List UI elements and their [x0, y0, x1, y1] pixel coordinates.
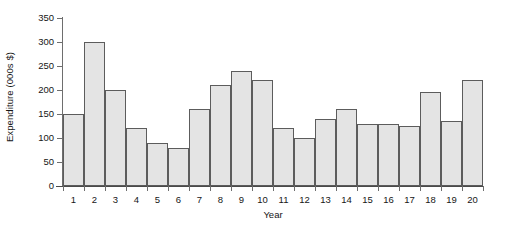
x-tick-mark: [231, 186, 232, 191]
x-tick-mark: [336, 186, 337, 191]
x-tick-mark: [483, 186, 484, 191]
x-tick-label: 1: [71, 193, 76, 206]
x-tick-mark: [105, 186, 106, 191]
x-tick-label: 14: [341, 193, 352, 206]
y-tick-label: 200: [38, 83, 54, 96]
x-tick-mark: [399, 186, 400, 191]
x-tick-mark: [462, 186, 463, 191]
y-tick-label: 150: [38, 107, 54, 120]
x-tick-label: 12: [299, 193, 310, 206]
x-tick-label: 19: [446, 193, 457, 206]
bar: [126, 128, 147, 186]
x-tick-mark: [168, 186, 169, 191]
x-tick-mark: [273, 186, 274, 191]
x-axis-title: Year: [63, 208, 483, 221]
y-tick: 100: [0, 138, 63, 139]
y-tick: 200: [0, 90, 63, 91]
y-tick-label: 250: [38, 59, 54, 72]
x-tick-mark: [126, 186, 127, 191]
bar: [63, 114, 84, 186]
x-tick-mark: [84, 186, 85, 191]
bar: [378, 124, 399, 186]
x-tick-label: 13: [320, 193, 331, 206]
bar: [441, 121, 462, 186]
x-tick-label: 6: [176, 193, 181, 206]
x-tick-mark: [252, 186, 253, 191]
x-tick-label: 7: [197, 193, 202, 206]
bar: [210, 85, 231, 186]
x-tick-label: 10: [257, 193, 268, 206]
y-tick-label: 50: [43, 155, 54, 168]
y-tick: 250: [0, 66, 63, 67]
x-tick-mark: [357, 186, 358, 191]
bar: [420, 92, 441, 186]
y-tick: 50: [0, 162, 63, 163]
y-tick-label: 350: [38, 11, 54, 24]
x-tick-label: 3: [113, 193, 118, 206]
plot-area: [63, 18, 483, 186]
x-tick-mark: [378, 186, 379, 191]
x-tick-mark: [420, 186, 421, 191]
x-tick-label: 18: [425, 193, 436, 206]
y-tick: 0: [0, 186, 63, 187]
y-tick: 300: [0, 42, 63, 43]
x-tick-mark: [210, 186, 211, 191]
bar: [231, 71, 252, 186]
x-tick-label: 16: [383, 193, 394, 206]
y-tick-label: 0: [49, 179, 54, 192]
x-tick-label: 9: [239, 193, 244, 206]
x-tick-mark: [315, 186, 316, 191]
bar: [462, 80, 483, 186]
x-tick-mark: [189, 186, 190, 191]
x-tick-label: 15: [362, 193, 373, 206]
bar-chart: Expenditure (000s $) 0501001502002503003…: [0, 0, 511, 236]
bar: [168, 148, 189, 186]
x-tick-label: 5: [155, 193, 160, 206]
bar: [189, 109, 210, 186]
bar: [252, 80, 273, 186]
x-tick-mark: [63, 186, 64, 191]
bar: [294, 138, 315, 186]
bar: [336, 109, 357, 186]
x-tick-label: 4: [134, 193, 139, 206]
x-tick-mark: [441, 186, 442, 191]
bar: [105, 90, 126, 186]
y-tick: 350: [0, 18, 63, 19]
x-tick-mark: [147, 186, 148, 191]
x-tick-label: 8: [218, 193, 223, 206]
bar: [399, 126, 420, 186]
y-tick-label: 300: [38, 35, 54, 48]
x-tick-label: 11: [279, 193, 289, 206]
x-tick-mark: [294, 186, 295, 191]
y-tick: 150: [0, 114, 63, 115]
bar: [147, 143, 168, 186]
bar: [273, 128, 294, 186]
x-tick-label: 20: [467, 193, 478, 206]
bar: [315, 119, 336, 186]
x-tick-label: 2: [92, 193, 97, 206]
bar: [357, 124, 378, 186]
y-tick-label: 100: [38, 131, 54, 144]
bar: [84, 42, 105, 186]
x-tick-label: 17: [404, 193, 415, 206]
